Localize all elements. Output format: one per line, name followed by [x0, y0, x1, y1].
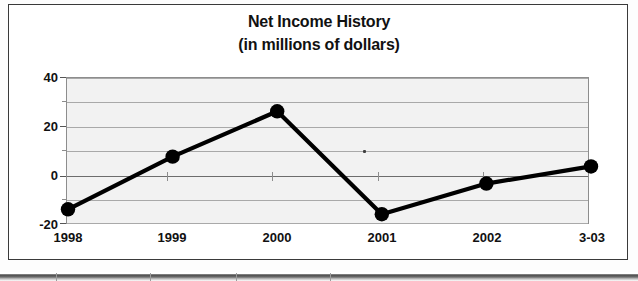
scan-bottom-band	[0, 272, 638, 281]
xtick-mark-2001	[378, 172, 379, 181]
ytick-mark-minus20	[60, 223, 66, 224]
gridline-zero	[67, 176, 588, 177]
ytick-mark-40	[60, 77, 66, 78]
ytick-mark-minus10	[62, 199, 66, 200]
ytick-mark-20	[60, 126, 66, 127]
gridline-minus20	[67, 223, 588, 224]
xtick-label-1999: 1999	[158, 231, 187, 245]
gridline-minus10	[67, 200, 588, 201]
gridline-20	[67, 127, 588, 128]
ytick-label-20: 20	[12, 120, 58, 133]
scan-band-tick	[56, 273, 57, 281]
chart-figure: Net Income History (in millions of dolla…	[0, 0, 638, 281]
xtick-label-2001: 2001	[368, 231, 397, 245]
xtick-label-1998: 1998	[54, 231, 83, 245]
ytick-label-0: 0	[12, 169, 58, 182]
xtick-mark-1999	[167, 172, 168, 181]
gridline-30	[67, 102, 588, 103]
ytick-mark-10	[62, 150, 66, 151]
gridline-10	[67, 151, 588, 152]
scan-band-tick	[330, 273, 331, 281]
ytick-label-40: 40	[12, 71, 58, 84]
chart-subtitle: (in millions of dollars)	[0, 35, 638, 55]
chart-title: Net Income History	[0, 12, 638, 32]
ytick-label-20n: -20	[12, 218, 58, 231]
gridline-40	[67, 78, 588, 79]
plot-area	[66, 77, 589, 224]
xtick-mark-2002	[483, 172, 484, 181]
scan-speck	[363, 150, 366, 153]
scan-band-tick	[236, 273, 237, 281]
xtick-label-2000: 2000	[263, 231, 292, 245]
ytick-mark-30	[62, 101, 66, 102]
xtick-mark-2000	[272, 172, 273, 181]
xtick-label-2002: 2002	[473, 231, 502, 245]
scan-band-tick	[150, 273, 151, 281]
xtick-label-3-03: 3-03	[579, 231, 605, 245]
ytick-mark-0	[60, 176, 66, 177]
